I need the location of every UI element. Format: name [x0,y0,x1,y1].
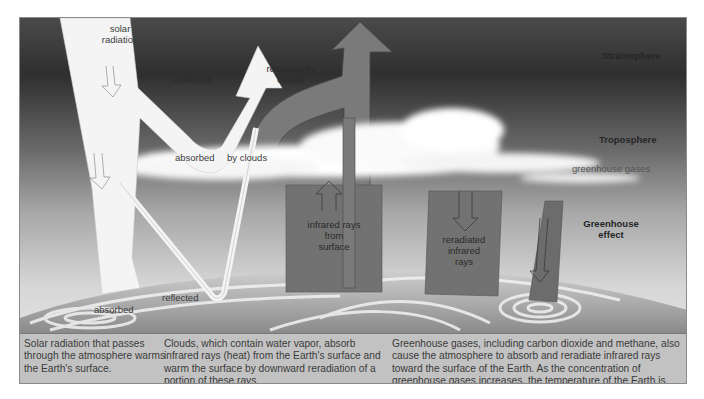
label-absorbed-by-clouds-b: by clouds [227,152,267,163]
label-solar-radiation: solar radiation [100,23,140,45]
caption-clouds: Clouds, which contain water vapor, absor… [164,338,382,384]
diagram-scene [20,18,687,333]
caption-strip: Solar radiation that passes through the … [20,333,687,384]
caption-solar: Solar radiation that passes through the … [24,338,172,375]
label-absorbed-by-clouds-a: absorbed [175,152,215,163]
label-absorbed-surface: absorbed [94,304,134,315]
label-greenhouse-gases: greenhouse gases [572,163,650,174]
label-stratosphere: Stratosphere [602,50,661,61]
label-released-by-clouds: released by clouds [256,63,326,85]
label-reflected-top: reflected [174,74,210,85]
caption-greenhouse-gases: Greenhouse gases, including carbon dioxi… [392,338,687,384]
label-reradiated-infrared-rays: reradiated infrared rays [434,234,494,267]
greenhouse-diagram: solar radiation reflected released by cl… [19,17,687,384]
label-infrared-rays-from-surface: infrared rays from surface [300,219,368,252]
label-reflected-surface: reflected [162,292,198,303]
label-troposphere: Troposphere [599,134,657,145]
label-greenhouse-effect: Greenhouse effect [579,218,643,240]
